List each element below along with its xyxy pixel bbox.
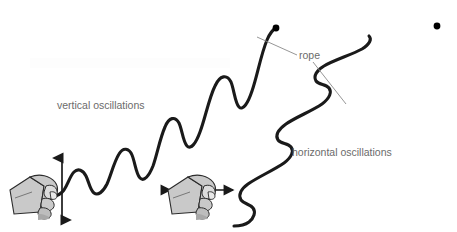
label-rope: rope — [299, 50, 320, 61]
label-vertical-oscillations: vertical oscillations — [57, 100, 145, 111]
wave-oscillations-diagram: vertical oscillations horizontal oscilla… — [0, 0, 457, 232]
left-hand-thumb — [50, 192, 57, 200]
hand-gripping-rope-vertical — [10, 175, 58, 220]
label-horizontal-oscillations: horizontal oscillations — [292, 147, 392, 158]
rope-right-horizontal-wave — [234, 23, 440, 226]
right-hand-thumb — [208, 192, 215, 200]
rope-leader-lines — [257, 37, 346, 104]
rope-left-endpoint-dot — [273, 25, 280, 32]
diagram-canvas — [0, 0, 457, 232]
rope-left-path — [53, 28, 276, 196]
rope-right-path — [234, 36, 370, 226]
hand-gripping-rope-horizontal — [168, 175, 216, 220]
rope-right-endpoint-dot — [434, 23, 441, 30]
